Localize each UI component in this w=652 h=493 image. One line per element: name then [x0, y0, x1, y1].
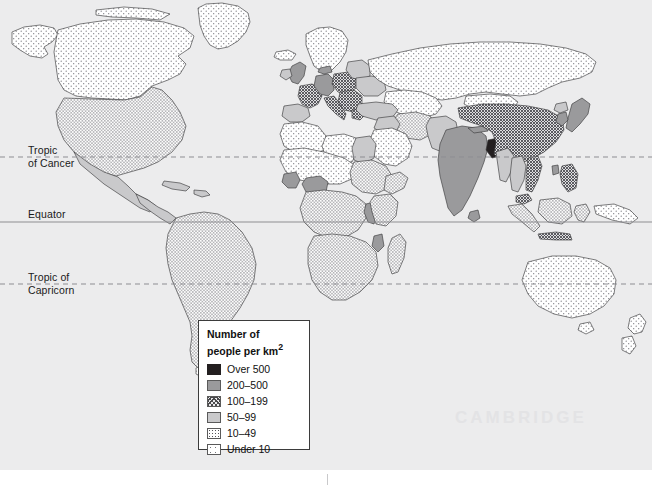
region-alaska [12, 25, 58, 58]
equator-label-line1: Equator [28, 208, 65, 221]
region-norway-sweden-finland [306, 27, 348, 72]
region-malaysia [516, 194, 532, 204]
legend-row-under-10: Under 10 [207, 442, 309, 457]
legend-row-10-49: 10–49 [207, 426, 309, 441]
region-southern-africa [308, 234, 378, 300]
region-canada [54, 19, 194, 100]
region-egypt [352, 136, 376, 164]
region-cuba [162, 181, 190, 191]
region-horn-of-africa [384, 172, 408, 194]
page-center-tick [327, 474, 328, 485]
landmasses [12, 3, 646, 378]
tropic-of-cancer-label: Tropic of Cancer [28, 144, 74, 170]
tropic-of-cancer-label-line1: Tropic [28, 144, 74, 157]
region-java [538, 232, 572, 240]
legend-title: Number of people per km2 [207, 328, 309, 358]
map-legend: Number of people per km2 Over 500 200–50… [198, 320, 310, 450]
region-sulawesi [574, 204, 590, 222]
region-philippines [560, 164, 578, 192]
region-india [438, 126, 488, 216]
region-new-guinea [594, 204, 638, 224]
region-north-korea [554, 102, 568, 113]
region-sri-lanka [468, 210, 480, 222]
legend-title-superscript: 2 [278, 342, 283, 352]
legend-row-200-500: 200–500 [207, 378, 309, 393]
legend-title-line1: Number of [207, 328, 309, 341]
tropic-of-capricorn-label-line1: Tropic of [28, 271, 74, 284]
legend-label-under-10: Under 10 [227, 443, 270, 455]
region-madagascar [388, 234, 406, 274]
world-map-svg [0, 0, 652, 470]
region-australia [522, 256, 616, 318]
legend-row-50-99: 50–99 [207, 410, 309, 425]
region-united-states [56, 87, 186, 176]
legend-label-50-99: 50–99 [227, 411, 256, 423]
legend-row-100-199: 100–199 [207, 394, 309, 409]
legend-label-100-199: 100–199 [227, 395, 268, 407]
publisher-watermark: CAMBRIDGE [455, 408, 615, 434]
legend-swatch-100-199 [207, 396, 221, 407]
legend-row-over-500: Over 500 [207, 362, 309, 377]
legend-swatch-200-500 [207, 380, 221, 391]
legend-label-over-500: Over 500 [227, 363, 270, 375]
region-canada-arctic-islands [96, 7, 170, 20]
region-thailand [510, 156, 526, 192]
legend-title-line2-text: people per km [207, 345, 278, 357]
legend-swatch-10-49 [207, 428, 221, 439]
region-sumatra [508, 204, 540, 232]
region-new-zealand-south [622, 336, 636, 354]
population-density-map-page: Tropic of Cancer Equator Tropic of Capri… [0, 0, 652, 493]
equator-label: Equator [28, 208, 65, 221]
region-taiwan [552, 165, 559, 175]
legend-swatch-under-10 [207, 444, 221, 455]
legend-label-200-500: 200–500 [227, 379, 268, 391]
region-greenland [198, 3, 250, 49]
map-canvas: Tropic of Cancer Equator Tropic of Capri… [0, 0, 652, 470]
region-japan [566, 98, 590, 132]
region-central-africa [300, 190, 366, 238]
region-new-zealand [628, 314, 646, 334]
legend-title-line2: people per km2 [207, 341, 309, 358]
region-iceland [274, 50, 296, 60]
tropic-of-capricorn-label: Tropic of Capricorn [28, 271, 74, 297]
legend-label-10-49: 10–49 [227, 427, 256, 439]
region-west-africa-coast [282, 172, 300, 188]
region-malawi [372, 234, 384, 252]
legend-swatch-over-500 [207, 364, 221, 375]
legend-swatch-50-99 [207, 412, 221, 423]
tropic-of-capricorn-label-line2: Capricorn [28, 284, 74, 297]
region-borneo [538, 198, 572, 224]
region-spain-portugal [282, 104, 310, 122]
region-tasmania [578, 322, 594, 334]
page-bottom-margin [0, 470, 652, 493]
region-vietnam [526, 156, 542, 192]
tropic-of-cancer-label-line2: of Cancer [28, 157, 74, 170]
region-hispaniola [194, 190, 210, 197]
